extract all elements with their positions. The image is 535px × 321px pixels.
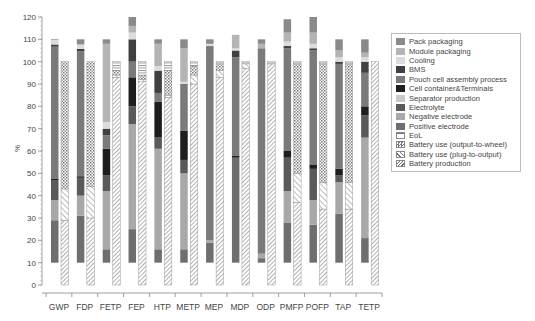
bar-segment [232,35,240,48]
legend-item: Cooling [396,56,520,65]
component-bar [180,39,188,262]
bar-segment [361,115,369,137]
bar-segment [51,44,59,46]
x-category-label: FEP [128,302,145,312]
legend-label: Separator production [409,94,480,103]
bar-segment [180,82,188,84]
stage-bar [190,62,198,285]
bar-segment [284,191,292,222]
bar-segment [139,80,147,82]
x-category-label: FDP [76,302,93,312]
bar-segment [216,77,224,285]
legend-swatch-icon [396,151,405,158]
bar-segment [164,97,172,285]
component-bar [103,39,111,262]
bar-segment [319,182,327,209]
legend-label: Pouch cell assembly process [409,75,507,84]
bar-segment [154,71,162,93]
bar-segment [335,169,343,176]
bar-segment [361,57,369,61]
component-bar [335,39,343,262]
bar-segment [242,68,250,285]
component-bar [206,39,214,262]
bar-segment [113,77,121,285]
bar-segment [154,66,162,70]
bar-segment [154,44,162,66]
y-tick-label: 120 [23,13,37,22]
stage-bar [216,62,224,285]
bar-segment [258,48,266,253]
bar-segment [309,33,317,44]
bar-segment [190,66,198,75]
chart-bars [51,17,379,285]
stage-bar [87,62,95,285]
bar-segment [77,39,85,44]
legend-item: Negative electrode [396,112,520,121]
bar-segment [294,173,302,202]
bar-segment [309,169,317,200]
chart-legend: Pack packagingModule packagingCoolingBMS… [391,33,521,172]
bar-segment [361,53,369,57]
bar-segment [103,249,111,262]
bar-segment [345,209,353,285]
legend-label: BMS [409,65,425,74]
bar-segment [242,64,250,68]
stage-bar [345,62,353,285]
bar-segment [284,19,292,32]
bar-segment [51,40,59,44]
bar-segment [345,182,353,209]
bar-segment [164,95,172,97]
legend-label: Electrolyte [409,103,444,112]
bar-segment [294,62,302,64]
legend-label: Cooling [409,56,435,65]
bar-segment [232,57,240,155]
stage-bar [164,62,172,285]
bar-segment [61,220,69,285]
y-axis-label: % [13,145,22,152]
bar-segment [77,49,85,51]
legend-item: Separator production [396,93,520,102]
chart-axes: 0102030405060708090100110120GWPFDPFETPFE… [23,13,382,312]
legend-item: EoL [396,131,520,140]
bar-segment [335,176,343,183]
stage-bar [139,62,147,285]
bar-segment [164,62,172,71]
legend-swatch-icon [396,132,405,139]
bar-segment [180,39,188,48]
legend-swatch-icon [396,123,405,130]
bar-segment [361,138,369,239]
component-bar [258,39,266,262]
bar-segment [129,124,137,229]
component-bar [309,17,317,263]
x-category-label: HTP [154,302,171,312]
bar-segment [284,151,292,158]
legend-item: Battery use (plug-to-output) [396,150,520,159]
legend-swatch-icon [396,48,405,55]
y-tick-label: 80 [27,102,36,111]
bar-segment [206,46,214,240]
bar-segment [154,102,162,138]
bar-segment [154,249,162,262]
bar-segment [103,176,111,192]
bar-segment [335,214,343,263]
bar-segment [361,238,369,263]
x-category-label: METP [176,302,200,312]
x-category-label: GWP [49,302,70,312]
bar-segment [77,178,85,196]
bar-segment [180,131,188,160]
stage-bar [61,62,69,285]
bar-segment [294,64,302,173]
y-tick-label: 110 [23,35,36,44]
bar-segment [319,62,327,64]
bar-segment [206,44,214,46]
bar-segment [129,62,137,78]
bar-segment [113,71,121,75]
bar-segment [129,33,137,40]
bar-segment [216,64,224,71]
bar-segment [103,149,111,176]
y-tick-label: 50 [27,169,36,178]
bar-segment [258,44,266,48]
legend-label: Cell container&Terminals [409,84,493,93]
bar-segment [335,62,343,64]
x-category-label: ODP [256,302,275,312]
